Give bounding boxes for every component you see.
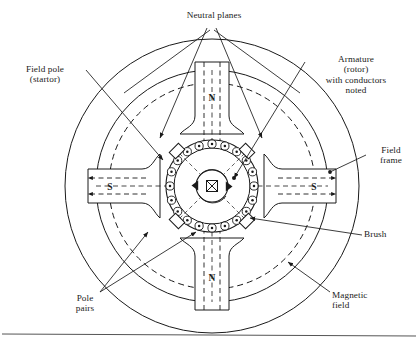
footer-rule bbox=[2, 334, 416, 336]
conductor bbox=[221, 142, 229, 150]
pole-letter-right: S bbox=[311, 182, 316, 192]
pole-letter-top: N bbox=[209, 93, 216, 103]
leader-magnetic-field bbox=[288, 262, 330, 292]
leader-brush bbox=[250, 218, 362, 235]
leader-pole-pairs-up bbox=[100, 232, 148, 292]
conductor bbox=[208, 224, 216, 232]
label-pole-pairs: Pole pairs bbox=[62, 293, 108, 314]
pole-letter-left: S bbox=[107, 182, 112, 192]
conductor bbox=[195, 142, 203, 150]
label-armature: Armature (rotor) with conductors noted bbox=[306, 54, 406, 96]
leader-field-pole bbox=[86, 70, 163, 160]
armature-leader-dot bbox=[232, 176, 236, 180]
field-frame-leader-dot bbox=[328, 170, 332, 174]
label-brush: Brush bbox=[364, 229, 408, 239]
conductor bbox=[195, 222, 203, 230]
conductor bbox=[167, 168, 175, 176]
rotor-group bbox=[166, 140, 258, 232]
label-field-frame: Field frame bbox=[368, 145, 414, 166]
conductor bbox=[250, 182, 258, 190]
label-magnetic-field: Magnetic field bbox=[332, 290, 408, 311]
pole-letter-bottom: N bbox=[209, 273, 216, 283]
label-field-pole: Field pole (startor) bbox=[8, 64, 82, 85]
label-neutral-planes: Neutral planes bbox=[166, 10, 262, 20]
conductor bbox=[248, 168, 256, 176]
diagram-canvas: N N S S Neutral planes Field pole (start… bbox=[0, 0, 418, 346]
conductor bbox=[248, 196, 256, 204]
leader-field-frame bbox=[330, 155, 366, 172]
conductor bbox=[166, 182, 174, 190]
conductor bbox=[167, 196, 175, 204]
conductor bbox=[208, 140, 216, 148]
conductor bbox=[221, 222, 229, 230]
